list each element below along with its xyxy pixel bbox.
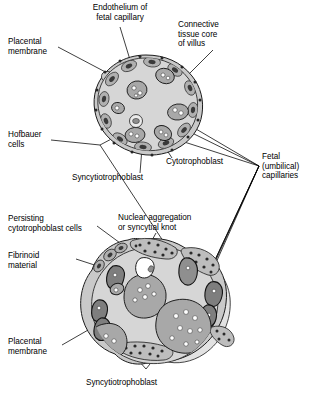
- label-cytotrophoblast: Cytotrophoblast: [166, 157, 250, 167]
- hofbauer-cell-upper: [130, 115, 143, 128]
- syncytial-knot-vacuole: [136, 258, 154, 278]
- label-endothelium-of-fetal-capillary: Endothelium of fetal capillary: [60, 3, 180, 22]
- label-fetal-umbilical-capillaries: Fetal (umbilical) capillaries: [262, 152, 310, 181]
- label-placental-membrane-top: Placental membrane: [8, 37, 80, 56]
- placental-villus-figure: Endothelium of fetal capillary Connectiv…: [0, 0, 310, 395]
- label-hofbauer-cells: Hofbauer cells: [8, 130, 70, 149]
- lower-villus-structure: [81, 238, 234, 364]
- diagram-artwork: [0, 0, 310, 395]
- label-persisting-cytotrophoblast-cells: Persisting cytotrophoblast cells: [8, 214, 112, 233]
- label-nuclear-aggregation-or-syncytial-knot: Nuclear aggregation or syncytial knot: [118, 213, 228, 232]
- label-fibrinoid-material: Fibrinoid material: [8, 251, 74, 270]
- label-syncytiotrophoblast-bottom: Syncytiotrophoblast: [86, 378, 196, 388]
- upper-villus-structure: [94, 55, 203, 157]
- label-placental-membrane-bottom: Placental membrane: [8, 337, 74, 356]
- label-syncytiotrophoblast-top: Syncytiotrophoblast: [72, 173, 176, 183]
- label-connective-tissue-core-of-villus: Connective tissue core of villus: [178, 20, 250, 49]
